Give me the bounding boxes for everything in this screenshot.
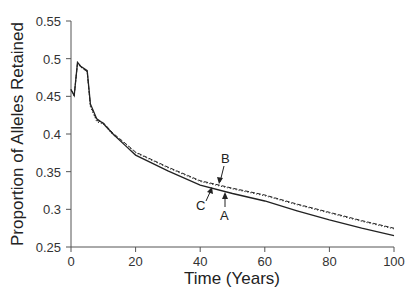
annotation-a-arrowhead [222,192,228,199]
axes: 0.250.30.350.40.450.50.55 020406080100 [36,14,405,269]
annotation-c-label: C [196,198,205,213]
x-axis-title: Time (Years) [184,269,280,288]
x-tick-label: 80 [322,254,336,269]
x-tick-label: 60 [258,254,272,269]
y-ticks: 0.250.30.350.40.450.50.55 [36,14,71,255]
y-axis-title: Proportion of Alleles Retained [8,22,27,246]
y-tick-label: 0.4 [43,127,61,142]
y-tick-label: 0.45 [36,89,61,104]
y-tick-label: 0.35 [36,165,61,180]
series-lines [71,62,394,235]
series-c-line [71,63,394,229]
annotation-b-arrowhead [217,177,223,184]
annotation-a-label: A [220,208,229,223]
y-tick-label: 0.5 [43,52,61,67]
series-a-line [71,62,394,235]
y-tick-label: 0.55 [36,14,61,29]
x-ticks: 020406080100 [67,247,404,269]
x-tick-label: 20 [128,254,142,269]
series-b-line [71,63,394,228]
y-tick-label: 0.3 [43,202,61,217]
chart: 0.250.30.350.40.450.50.55 020406080100 T… [0,0,416,305]
x-tick-label: 100 [383,254,405,269]
x-tick-label: 0 [67,254,74,269]
y-tick-label: 0.25 [36,240,61,255]
x-tick-label: 40 [193,254,207,269]
annotation-b-label: B [221,151,230,166]
